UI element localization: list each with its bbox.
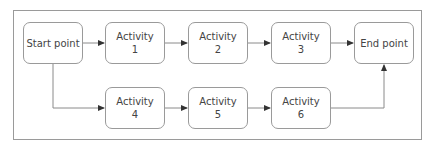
node-end-point: End point xyxy=(354,22,414,64)
node-label: Activity xyxy=(282,30,319,43)
arrow-start-to-a4 xyxy=(53,64,104,108)
node-start-point: Start point xyxy=(23,22,83,64)
node-number: 1 xyxy=(132,43,138,56)
node-activity-2: Activity 2 xyxy=(188,22,248,64)
node-label: Start point xyxy=(26,37,79,50)
node-activity-6: Activity 6 xyxy=(271,87,331,129)
node-label: Activity xyxy=(199,30,236,43)
node-number: 3 xyxy=(298,43,304,56)
arrow-a6-to-end xyxy=(331,65,384,108)
node-number: 4 xyxy=(132,108,138,121)
node-label: Activity xyxy=(199,95,236,108)
node-label: Activity xyxy=(282,95,319,108)
node-number: 2 xyxy=(215,43,221,56)
node-activity-4: Activity 4 xyxy=(105,87,165,129)
node-label: End point xyxy=(360,37,408,50)
node-label: Activity xyxy=(116,30,153,43)
node-label: Activity xyxy=(116,95,153,108)
node-number: 6 xyxy=(298,108,304,121)
node-activity-5: Activity 5 xyxy=(188,87,248,129)
node-activity-1: Activity 1 xyxy=(105,22,165,64)
node-number: 5 xyxy=(215,108,221,121)
node-activity-3: Activity 3 xyxy=(271,22,331,64)
